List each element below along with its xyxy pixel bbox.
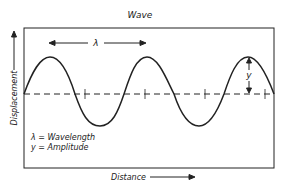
x-axis-arrow <box>150 175 195 180</box>
wave-curve <box>24 57 274 126</box>
wave-diagram: Wave λ y λ = Wavelength y = Amplitude Di… <box>0 0 285 187</box>
wavelength-symbol: λ <box>92 38 98 48</box>
x-axis-label: Distance <box>111 173 146 182</box>
legend-amplitude: y = Amplitude <box>30 143 89 152</box>
y-axis-arrow <box>12 31 17 70</box>
amplitude-symbol: y <box>245 70 252 80</box>
y-axis-label: Displacement <box>10 70 19 126</box>
legend-wavelength: λ = Wavelength <box>30 133 95 142</box>
diagram-title: Wave <box>128 10 153 20</box>
